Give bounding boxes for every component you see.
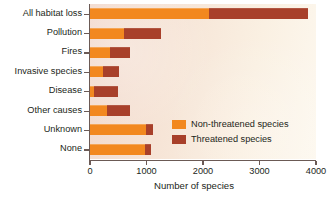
- bar-segment-non-threatened: [90, 47, 110, 58]
- bar-segment-non-threatened: [90, 28, 124, 39]
- y-axis-tick-label: All habitat loss: [23, 8, 82, 19]
- bar-segment-threatened: [146, 124, 153, 135]
- y-axis-tick: [84, 149, 89, 150]
- y-axis-tick-label: Fires: [62, 46, 82, 57]
- y-axis-tick-label: Other causes: [27, 105, 82, 116]
- y-axis-tick: [84, 91, 89, 92]
- y-axis-tick-label: None: [60, 143, 82, 154]
- bar-segment-non-threatened: [90, 144, 145, 155]
- legend-label: Threatened species: [191, 134, 272, 145]
- y-axis-tick: [84, 130, 89, 131]
- legend-item: Threatened species: [172, 133, 289, 146]
- chart-legend: Non-threatened speciesThreatened species: [172, 118, 289, 148]
- y-axis-line: [89, 4, 90, 161]
- x-axis-title-text: Number of species: [100, 180, 234, 191]
- bar-segment-threatened: [107, 105, 130, 116]
- bar-segment-non-threatened: [90, 8, 209, 19]
- y-axis-tick: [84, 14, 89, 15]
- x-axis-tick: [89, 161, 90, 165]
- legend-label: Non-threatened species: [191, 119, 289, 130]
- x-axis-tick: [146, 161, 147, 165]
- x-axis-tick: [315, 161, 316, 165]
- y-axis-tick: [84, 52, 89, 53]
- x-axis-tick-label: 2000: [193, 166, 213, 177]
- y-axis-tick-label: Disease: [49, 85, 82, 96]
- bar-segment-threatened: [145, 144, 151, 155]
- bar-segment-threatened: [103, 66, 119, 77]
- bar-segment-threatened: [124, 28, 161, 39]
- bar-segment-non-threatened: [90, 105, 107, 116]
- x-axis-title: Number of species: [0, 180, 334, 191]
- x-axis-tick: [202, 161, 203, 165]
- y-axis-tick-label: Invasive species: [15, 66, 82, 77]
- x-axis-tick: [259, 161, 260, 165]
- bar-segment-threatened: [110, 47, 130, 58]
- x-axis-tick-label: 1000: [136, 166, 156, 177]
- y-axis-tick: [84, 111, 89, 112]
- y-axis-tick: [84, 33, 89, 34]
- x-axis-tick-label: 4000: [306, 166, 326, 177]
- legend-swatch-icon: [172, 135, 186, 144]
- y-axis-tick: [84, 72, 89, 73]
- x-axis-tick-label: 0: [87, 166, 92, 177]
- bar-segment-threatened: [209, 8, 308, 19]
- bar-segment-threatened: [94, 86, 118, 97]
- y-axis-tick-label: Unknown: [44, 124, 82, 135]
- bar-segment-non-threatened: [90, 124, 146, 135]
- legend-swatch-icon: [172, 120, 186, 129]
- species-threat-bar-chart: All habitat lossPollutionFiresInvasive s…: [0, 0, 334, 202]
- bar-segment-non-threatened: [90, 66, 103, 77]
- y-axis-tick-label: Pollution: [47, 27, 82, 38]
- legend-item: Non-threatened species: [172, 118, 289, 131]
- x-axis-tick-label: 3000: [249, 166, 269, 177]
